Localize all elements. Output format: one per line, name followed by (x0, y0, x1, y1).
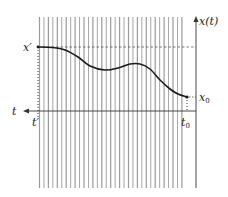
x-prime-label: x′ (23, 41, 32, 54)
t-zero-label: t0 (181, 116, 190, 130)
trajectory-diagram: x(t) t x′ t′ x0 t0 (0, 0, 228, 197)
t-prime-label: t′ (32, 116, 39, 129)
end-point (185, 95, 188, 98)
x-axis-arrow-icon (194, 16, 199, 22)
time-axis-arrow-icon (23, 109, 29, 114)
x-axis-label: t (12, 105, 17, 118)
start-point (37, 46, 40, 49)
x-zero-label: x0 (199, 91, 210, 105)
vertical-grid-lines (40, 17, 182, 188)
y-axis-label: x(t) (199, 15, 218, 28)
